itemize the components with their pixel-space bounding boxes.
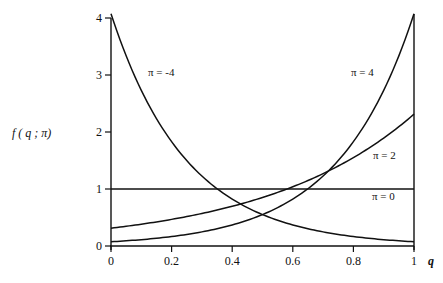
curves [111, 14, 414, 242]
x-tick-label: 0 [108, 254, 114, 268]
x-tick-label: 0.4 [225, 254, 240, 268]
y-axis-title: f ( q ; π) [12, 126, 51, 140]
label-pi-2: π = 2 [373, 149, 396, 161]
x-axis-title: q [428, 254, 434, 268]
y-tick-label: 2 [96, 125, 102, 139]
axes: 0123400.20.40.60.81 [96, 11, 417, 268]
x-tick-label: 0.8 [346, 254, 361, 268]
y-tick-label: 4 [96, 11, 102, 25]
curve-4 [111, 14, 414, 242]
x-tick-label: 1 [411, 254, 417, 268]
curve-2 [111, 114, 414, 228]
y-tick-label: 0 [96, 239, 102, 253]
label-pi-4: π = 4 [351, 66, 374, 78]
density-chart: 0123400.20.40.60.81 f ( q ; π) q π = -4 … [0, 0, 443, 283]
x-tick-label: 0.6 [285, 254, 300, 268]
y-tick-label: 1 [96, 182, 102, 196]
label-pi-0: π = 0 [372, 190, 395, 202]
x-tick-label: 0.2 [164, 254, 179, 268]
y-tick-label: 3 [96, 68, 102, 82]
label-pi-neg4: π = -4 [148, 66, 175, 78]
curve-neg4 [111, 14, 414, 242]
